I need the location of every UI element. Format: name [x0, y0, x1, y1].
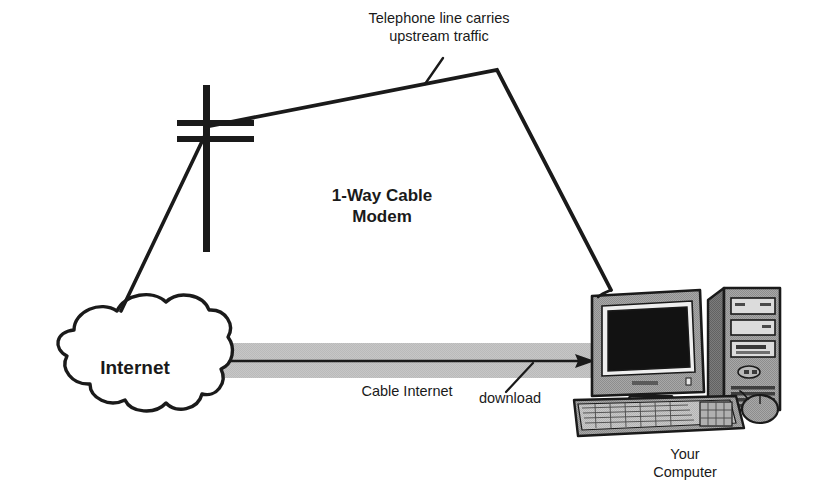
upstream-telephone-line [210, 70, 611, 290]
cable-modem-diagram: Telephone line carries upstream traffic … [0, 0, 814, 504]
label-one-way-cable-modem: 1-Way Cable Modem [282, 186, 482, 227]
internet-cloud [58, 295, 233, 411]
label-your-computer: Your Computer [625, 446, 745, 481]
label-internet: Internet [70, 356, 200, 379]
label-upstream-traffic: Telephone line carries upstream traffic [334, 10, 544, 45]
label-download: download [455, 390, 565, 408]
keyboard [574, 396, 744, 436]
computer [574, 288, 780, 436]
pole-to-internet-line [121, 131, 207, 311]
diagram-canvas [0, 0, 814, 504]
label-cable-internet: Cable Internet [342, 383, 472, 401]
